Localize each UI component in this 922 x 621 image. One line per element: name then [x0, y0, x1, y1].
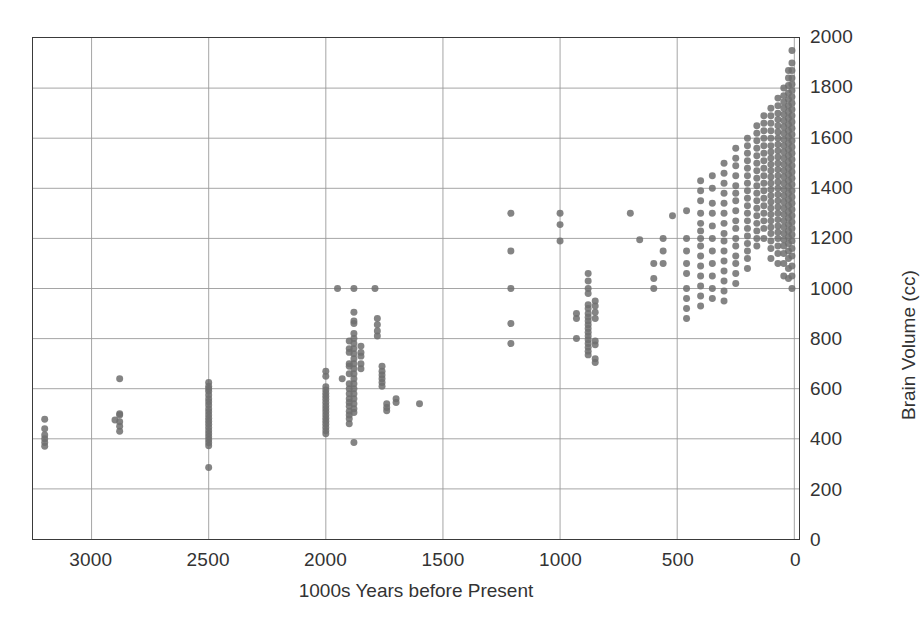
- data-point: [788, 100, 795, 107]
- data-point: [322, 430, 329, 437]
- data-point: [744, 172, 751, 179]
- data-point: [788, 131, 795, 138]
- data-point: [507, 340, 514, 347]
- data-point: [767, 112, 774, 119]
- data-point: [350, 439, 357, 446]
- data-point: [744, 195, 751, 202]
- data-point: [732, 172, 739, 179]
- data-point: [788, 252, 795, 259]
- data-point: [788, 194, 795, 201]
- data-point: [767, 167, 774, 174]
- data-point: [774, 222, 781, 229]
- data-point: [683, 270, 690, 277]
- data-point: [721, 267, 728, 274]
- data-point: [767, 142, 774, 149]
- data-point: [760, 135, 767, 142]
- y-tick-label: 2000: [810, 26, 853, 48]
- data-point: [767, 105, 774, 112]
- data-point: [709, 210, 716, 217]
- data-point: [744, 217, 751, 224]
- data-point: [416, 400, 423, 407]
- data-point: [753, 182, 760, 189]
- data-point: [721, 237, 728, 244]
- data-point: [767, 135, 774, 142]
- data-point: [774, 141, 781, 148]
- data-point: [507, 320, 514, 327]
- data-point: [744, 210, 751, 217]
- data-point: [732, 190, 739, 197]
- data-point: [774, 191, 781, 198]
- x-tick-label: 1000: [539, 549, 582, 571]
- data-point: [350, 409, 357, 416]
- y-tick-label: 1200: [810, 227, 853, 249]
- data-point: [41, 416, 48, 423]
- data-point: [697, 303, 704, 310]
- data-point: [507, 210, 514, 217]
- data-point: [788, 150, 795, 157]
- data-point: [732, 182, 739, 189]
- data-point: [721, 257, 728, 264]
- data-point: [697, 293, 704, 300]
- data-point: [557, 221, 564, 228]
- data-point: [732, 155, 739, 162]
- data-point: [788, 272, 795, 279]
- data-point: [788, 125, 795, 132]
- data-point: [585, 270, 592, 277]
- data-point: [744, 265, 751, 272]
- data-point: [774, 154, 781, 161]
- data-point: [744, 232, 751, 239]
- data-point: [767, 180, 774, 187]
- data-point: [592, 341, 599, 348]
- data-point: [116, 375, 123, 382]
- data-point: [774, 204, 781, 211]
- data-point: [697, 227, 704, 234]
- data-point: [697, 242, 704, 249]
- data-point: [788, 181, 795, 188]
- data-point: [697, 177, 704, 184]
- data-points-layer: [33, 38, 799, 539]
- y-tick-label: 1600: [810, 127, 853, 149]
- data-point: [721, 220, 728, 227]
- data-point: [760, 187, 767, 194]
- data-point: [753, 190, 760, 197]
- data-point: [592, 359, 599, 366]
- data-point: [650, 260, 657, 267]
- data-point: [709, 247, 716, 254]
- data-point: [788, 206, 795, 213]
- data-point: [721, 288, 728, 295]
- data-point: [636, 236, 643, 243]
- data-point: [788, 67, 795, 74]
- data-point: [41, 443, 48, 450]
- data-point: [753, 235, 760, 242]
- data-point: [732, 260, 739, 267]
- data-point: [507, 247, 514, 254]
- data-point: [683, 235, 690, 242]
- data-point: [732, 242, 739, 249]
- data-point: [709, 260, 716, 267]
- data-point: [721, 170, 728, 177]
- data-point: [788, 156, 795, 163]
- data-point: [205, 379, 212, 386]
- data-point: [788, 118, 795, 125]
- y-tick-label: 800: [810, 328, 842, 350]
- data-point: [760, 217, 767, 224]
- data-point: [788, 93, 795, 100]
- data-point: [774, 185, 781, 192]
- data-point: [788, 225, 795, 232]
- data-point: [709, 235, 716, 242]
- data-point: [334, 285, 341, 292]
- data-point: [350, 309, 357, 316]
- y-axis-title: Brain Volume (cc): [898, 270, 920, 420]
- data-point: [585, 290, 592, 297]
- data-point: [767, 211, 774, 218]
- data-point: [721, 200, 728, 207]
- data-point: [788, 200, 795, 207]
- data-point: [683, 260, 690, 267]
- data-point: [683, 207, 690, 214]
- data-point: [767, 192, 774, 199]
- data-point: [788, 245, 795, 252]
- data-point: [507, 285, 514, 292]
- data-point: [760, 210, 767, 217]
- y-tick-label: 0: [810, 529, 821, 551]
- data-point: [767, 237, 774, 244]
